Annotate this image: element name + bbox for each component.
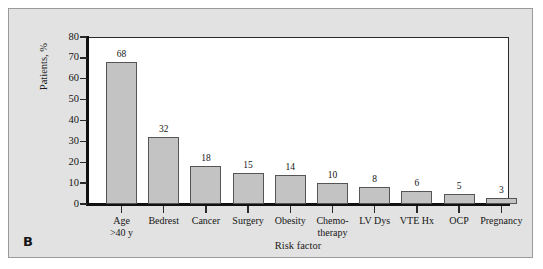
y-tick-80	[80, 36, 87, 37]
bar-value-label: 14	[270, 163, 310, 173]
x-tick	[332, 206, 333, 213]
x-axis-ticks	[87, 206, 509, 214]
bar	[106, 62, 137, 204]
y-tick-label-70: 70	[53, 52, 79, 63]
bar-value-label: 3	[481, 186, 521, 196]
bar	[317, 183, 348, 204]
x-tick-label-line1: Cancer	[192, 215, 220, 226]
x-tick-label-line1: OCP	[449, 215, 468, 226]
y-tick-label-50: 50	[53, 94, 79, 105]
y-tick-50	[80, 99, 87, 100]
y-tick-label-10: 10	[53, 178, 79, 189]
x-axis-title: Risk factor	[87, 240, 509, 251]
y-tick-label-20: 20	[53, 157, 79, 168]
x-tick-label-line1: Surgery	[232, 215, 263, 226]
bar	[486, 198, 517, 204]
x-tick	[290, 206, 291, 213]
y-tick-0	[80, 203, 87, 204]
bar-value-label: 10	[313, 171, 353, 181]
y-tick-10	[80, 182, 87, 183]
bars-layer: 6832181514108653	[87, 37, 509, 204]
y-axis-title: Patients, %	[38, 7, 49, 127]
bar-value-label: 18	[186, 154, 226, 164]
y-tick-20	[80, 162, 87, 163]
x-tick-label-line2: therapy	[303, 227, 363, 239]
bar-value-label: 32	[144, 125, 184, 135]
panel-letter: B	[23, 234, 33, 249]
y-tick-40	[80, 120, 87, 121]
x-tick-label-line1: Age	[113, 215, 130, 226]
y-tick-60	[80, 78, 87, 79]
bar	[401, 191, 432, 204]
y-axis-tick-labels: 01020304050607080	[53, 37, 79, 204]
x-tick	[458, 206, 459, 213]
bar-value-label: 6	[397, 179, 437, 189]
x-tick-label-line1: Pregnancy	[480, 215, 522, 226]
y-tick-label-40: 40	[53, 115, 79, 126]
x-tick-label: Pregnancy	[471, 215, 531, 227]
x-tick	[501, 206, 502, 213]
bar-value-label: 68	[102, 50, 142, 60]
x-tick	[121, 206, 122, 213]
bar	[359, 187, 390, 204]
y-tick-label-0: 0	[53, 199, 79, 210]
x-tick	[205, 206, 206, 213]
x-tick-label-line2: >40 y	[92, 227, 152, 239]
x-tick	[374, 206, 375, 213]
bar	[233, 173, 264, 204]
bar	[444, 194, 475, 204]
y-tick-30	[80, 141, 87, 142]
x-tick	[163, 206, 164, 213]
x-tick-label-line1: Obesity	[275, 215, 306, 226]
bar-value-label: 8	[355, 175, 395, 185]
y-tick-label-60: 60	[53, 73, 79, 84]
bar	[190, 166, 221, 204]
y-tick-70	[80, 57, 87, 58]
bar	[148, 137, 179, 204]
y-tick-label-80: 80	[53, 32, 79, 43]
bar-value-label: 15	[228, 161, 268, 171]
x-tick-label-line1: Bedrest	[148, 215, 179, 226]
bar-value-label: 5	[439, 182, 479, 192]
y-tick-label-30: 30	[53, 136, 79, 147]
x-tick-label-line1: LV Dys	[359, 215, 390, 226]
bar	[275, 175, 306, 204]
x-tick	[416, 206, 417, 213]
x-tick	[247, 206, 248, 213]
figure-panel: Patients, % 01020304050607080 6832181514…	[8, 8, 533, 258]
